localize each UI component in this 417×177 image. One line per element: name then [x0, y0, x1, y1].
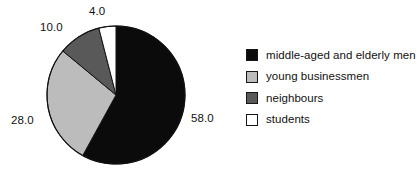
- pie-svg: [0, 0, 235, 177]
- legend-item-label: young businessmen: [266, 70, 369, 83]
- legend-item-neighbours: neighbours: [246, 90, 414, 106]
- pie-slice-group: [47, 26, 185, 164]
- slice-value-middle-aged-and-elderly-men: 58.0: [191, 113, 214, 125]
- slice-value-students: 4.0: [89, 6, 105, 18]
- slice-value-young-businessmen: 28.0: [11, 115, 34, 127]
- legend-item-label: neighbours: [266, 92, 323, 105]
- legend-swatch-icon: [246, 92, 258, 104]
- pie-chart-figure: 4.0 10.0 28.0 58.0 middle-aged and elder…: [0, 0, 417, 177]
- chart-legend: middle-aged and elderly men young busine…: [246, 47, 414, 133]
- legend-item-young-businessmen: young businessmen: [246, 69, 414, 85]
- legend-item-students: students: [246, 112, 414, 128]
- slice-value-neighbours: 10.0: [40, 22, 63, 34]
- legend-item-middle-aged-and-elderly-men: middle-aged and elderly men: [246, 47, 414, 63]
- legend-swatch-icon: [246, 71, 258, 83]
- legend-swatch-icon: [246, 114, 258, 126]
- legend-item-label: middle-aged and elderly men: [266, 49, 416, 62]
- legend-item-label: students: [266, 113, 310, 126]
- legend-swatch-icon: [246, 49, 258, 61]
- pie-plot-area: 4.0 10.0 28.0 58.0: [0, 0, 235, 177]
